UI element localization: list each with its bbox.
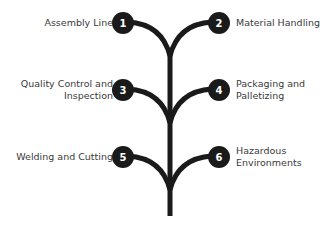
node-6-label-line1: Hazardous (236, 145, 302, 157)
node-4-label: Packaging and Palletizing (236, 78, 305, 102)
node-4-label-line1: Packaging and (236, 78, 305, 90)
node-4-label-line2: Palletizing (236, 90, 305, 102)
node-1-label: Assembly Line (44, 17, 113, 29)
node-2-badge: 2 (208, 12, 230, 34)
node-2-label: Material Handling (236, 17, 320, 29)
branch-2 (170, 22, 212, 56)
node-5-badge: 5 (112, 146, 134, 168)
branch-1 (128, 22, 170, 56)
node-2-label-line1: Material Handling (236, 17, 320, 29)
node-3-label-line1: Quality Control and (21, 78, 113, 90)
node-5-number: 5 (120, 152, 127, 163)
node-6-label-line2: Environments (236, 157, 302, 169)
node-1-badge: 1 (112, 12, 134, 34)
node-6-number: 6 (216, 152, 223, 163)
node-2-number: 2 (216, 18, 223, 29)
node-3-badge: 3 (112, 79, 134, 101)
tree-diagram (0, 0, 327, 226)
node-4-number: 4 (216, 85, 223, 96)
node-4-badge: 4 (208, 79, 230, 101)
node-1-number: 1 (120, 18, 127, 29)
branch-6 (170, 156, 212, 190)
branch-4 (170, 89, 212, 123)
branch-5 (128, 156, 170, 190)
node-5-label-line1: Welding and Cutting (16, 151, 113, 163)
node-3-label-line2: Inspection (21, 90, 113, 102)
node-6-badge: 6 (208, 146, 230, 168)
node-3-number: 3 (120, 85, 127, 96)
node-1-label-line1: Assembly Line (44, 17, 113, 29)
node-6-label: Hazardous Environments (236, 145, 302, 169)
node-3-label: Quality Control and Inspection (21, 78, 113, 102)
node-5-label: Welding and Cutting (16, 151, 113, 163)
branch-3 (128, 89, 170, 123)
